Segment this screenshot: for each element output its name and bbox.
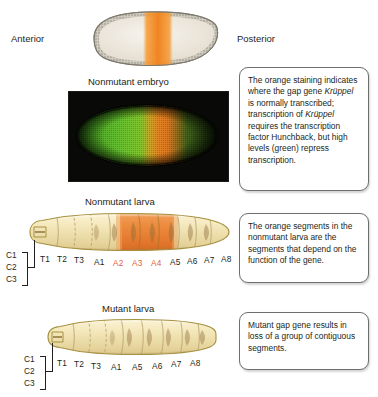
embryo-micrograph-svg xyxy=(69,92,226,179)
embryo-illustration-svg xyxy=(86,8,224,70)
mutant-head-bracket-shape xyxy=(40,356,46,390)
mutant-segment-label-A8: A8 xyxy=(190,358,200,368)
caption-nonmutant-embryo: Nonmutant embryo xyxy=(88,76,169,87)
callout-nonmutant-larva: The orange segments in the nonmutant lar… xyxy=(239,213,369,283)
mutant-segment-label-A5: A5 xyxy=(132,362,142,372)
nonmutant-larva-svg xyxy=(26,210,234,254)
head-bracket-label-c3: C3 xyxy=(6,274,17,284)
caption-mutant-larva: Mutant larva xyxy=(102,303,154,314)
nonmutant-larva xyxy=(26,210,234,254)
segment-label-T2: T2 xyxy=(57,254,67,264)
embryo-illustration xyxy=(86,8,224,70)
head-bracket-mutant: C1 C2 C3 xyxy=(24,354,66,394)
head-bracket-label-c1: C1 xyxy=(6,250,17,260)
segment-label-T3: T3 xyxy=(74,255,84,265)
segment-label-A8: A8 xyxy=(221,254,231,264)
posterior-label: Posterior xyxy=(237,33,275,44)
mutant-larva-svg xyxy=(44,316,220,358)
callout-mutant-larva: Mutant gap gene results in loss of a gro… xyxy=(239,312,369,370)
segment-label-A4: A4 xyxy=(151,258,161,268)
mutant-segment-label-T2: T2 xyxy=(74,359,84,369)
callout-nonmutant-larva-text: The orange segments in the nonmutant lar… xyxy=(248,221,357,265)
mutant-segment-label-A7: A7 xyxy=(171,359,181,369)
head-bracket-shape xyxy=(22,252,28,286)
head-bracket-riser xyxy=(34,240,35,268)
segment-label-A3: A3 xyxy=(132,258,142,268)
mutant-head-bracket-label-c2: C2 xyxy=(24,366,35,376)
caption-nonmutant-larva: Nonmutant larva xyxy=(85,196,155,207)
segment-label-A5: A5 xyxy=(170,257,180,267)
anterior-label: Anterior xyxy=(11,33,44,44)
callout-embryo-text: The orange staining indicates where the … xyxy=(248,75,357,165)
mutant-segment-label-A6: A6 xyxy=(152,361,162,371)
mutant-head-bracket-riser xyxy=(52,343,53,372)
callout-mutant-larva-text: Mutant gap gene results in loss of a gro… xyxy=(248,320,355,353)
segment-label-A6: A6 xyxy=(187,256,197,266)
mutant-head-bracket-label-c1: C1 xyxy=(24,354,35,364)
segment-label-A1: A1 xyxy=(94,257,104,267)
mutant-segment-label-T3: T3 xyxy=(91,361,101,371)
head-bracket-label-c2: C2 xyxy=(6,262,17,272)
segment-label-A2: A2 xyxy=(113,258,123,268)
mutant-head-bracket-label-c3: C3 xyxy=(24,378,35,388)
head-bracket-nonmutant: C1 C2 C3 xyxy=(6,250,48,290)
callout-embryo: The orange staining indicates where the … xyxy=(239,67,369,191)
embryo-kruppel-stain xyxy=(143,10,173,68)
segment-label-A7: A7 xyxy=(204,255,214,265)
mutant-segment-label-A1: A1 xyxy=(111,362,121,372)
mutant-larva xyxy=(44,316,220,358)
embryo-micrograph xyxy=(68,91,229,182)
